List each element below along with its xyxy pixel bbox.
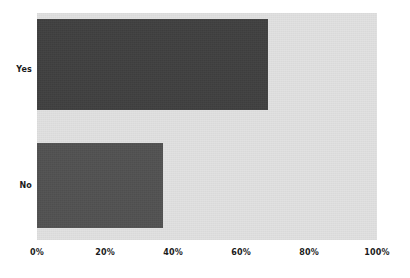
x-axis-tick-0: 0%	[30, 248, 44, 257]
bar-no[interactable]	[37, 143, 163, 228]
x-axis-tick-20: 20%	[95, 248, 115, 257]
bar-chart: Yes No 0% 20% 40% 60% 80% 100%	[0, 0, 410, 278]
bar-yes[interactable]	[37, 19, 268, 110]
bar-no-fill	[37, 143, 163, 228]
y-axis-label-yes: Yes	[0, 65, 32, 74]
plot-area	[37, 13, 377, 240]
x-axis-tick-40: 40%	[163, 248, 183, 257]
x-axis-tick-60: 60%	[231, 248, 251, 257]
bar-yes-fill	[37, 19, 268, 110]
x-axis-tick-100: 100%	[364, 248, 390, 257]
x-axis-tick-80: 80%	[299, 248, 319, 257]
y-axis-label-no: No	[0, 181, 32, 190]
